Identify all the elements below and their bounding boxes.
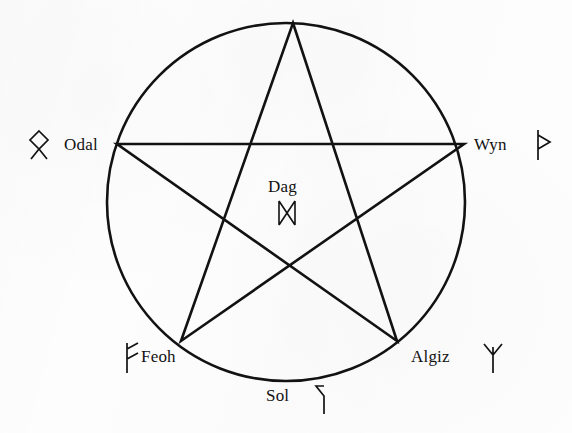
feoh-rune bbox=[121, 341, 143, 375]
pentagram-figure: Odal Wyn Feoh Algiz Sol Dag bbox=[0, 0, 572, 433]
label-wyn: Wyn bbox=[474, 136, 507, 153]
wyn-rune bbox=[532, 128, 554, 162]
label-odal: Odal bbox=[64, 136, 98, 153]
sol-rune bbox=[311, 382, 331, 416]
dag-rune bbox=[275, 198, 299, 228]
label-dag: Dag bbox=[268, 178, 297, 195]
label-algiz: Algiz bbox=[411, 348, 450, 365]
label-sol: Sol bbox=[266, 387, 289, 404]
odal-rune bbox=[26, 128, 52, 162]
algiz-rune bbox=[481, 341, 505, 375]
label-feoh: Feoh bbox=[141, 348, 176, 365]
